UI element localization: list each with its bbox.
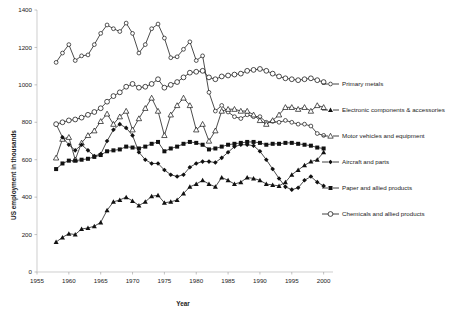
chart-canvas: 0200400600800100012001400195519601965197… (0, 0, 454, 318)
x-tick-label: 1990 (253, 277, 267, 284)
y-tick-label: 0 (29, 268, 33, 275)
y-tick-label: 400 (22, 193, 33, 200)
x-axis-title: Year (176, 300, 190, 307)
legend-item-label: Motor vehicles and equipment (342, 132, 425, 139)
legend-item-label: Aircraft and parts (342, 158, 389, 165)
legend-item-label: Primary metals (342, 80, 383, 87)
legend-item-label: Electronic components & accessories (342, 106, 445, 113)
x-tick-label: 1980 (189, 277, 203, 284)
x-tick-label: 2000 (317, 277, 331, 284)
y-axis-title: US employment in thousands (10, 130, 18, 220)
y-tick-label: 200 (22, 231, 33, 238)
legend-item-label: Chemicals and allied products (342, 210, 425, 217)
legend-item-label: Paper and allied products (342, 184, 412, 191)
y-tick-label: 1400 (18, 6, 32, 13)
y-tick-label: 600 (22, 156, 33, 163)
x-tick-label: 1995 (285, 277, 299, 284)
y-tick-label: 1000 (18, 81, 32, 88)
x-tick-label: 1970 (126, 277, 140, 284)
x-tick-label: 1975 (158, 277, 172, 284)
x-tick-label: 1965 (94, 277, 108, 284)
y-tick-label: 1200 (18, 44, 32, 51)
x-tick-label: 1960 (62, 277, 76, 284)
employment-line-chart: 0200400600800100012001400195519601965197… (0, 0, 454, 318)
x-tick-label: 1955 (30, 277, 44, 284)
y-tick-label: 800 (22, 118, 33, 125)
x-tick-label: 1985 (221, 277, 235, 284)
